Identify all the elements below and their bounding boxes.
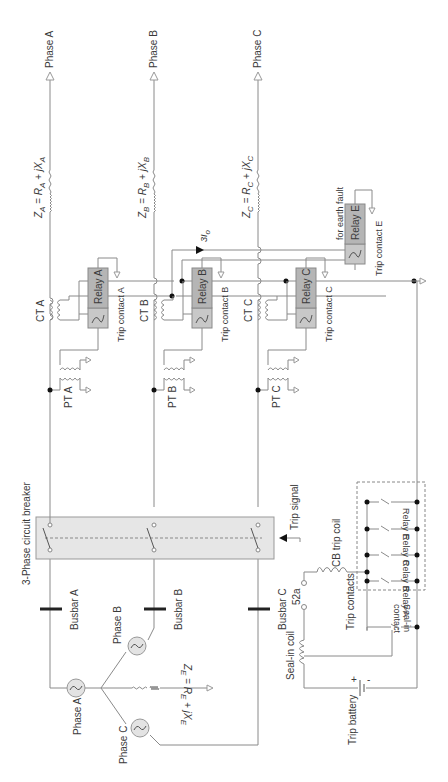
aux-contact-52a-label: 52a <box>291 588 302 605</box>
phase-b-output-label: Phase B <box>148 30 159 68</box>
seal-in-coil-label: Seal-in coil <box>285 631 296 680</box>
junction-dot <box>365 500 370 505</box>
junction-dot <box>415 527 420 532</box>
relay-e-label: Relay E <box>350 205 361 240</box>
phase-c-output-arrow-icon <box>254 72 262 80</box>
pt-c-label: PT C <box>271 385 282 408</box>
pt-c-primary-coil <box>268 368 288 370</box>
trip-contact-e-label: Trip contact E <box>374 221 384 276</box>
phase-a-resistance-symbol <box>49 170 51 194</box>
junction-dot <box>256 388 261 393</box>
junction-dot <box>365 553 370 558</box>
relay-b-label: Relay B <box>197 269 208 304</box>
cb-trip-coil-symbol <box>317 568 347 573</box>
phase-a-output-label: Phase A <box>44 30 55 68</box>
svg-text:ZC = RC + jXC: ZC = RC + jXC <box>241 155 255 219</box>
trip-contact-c-arrow-icon <box>322 272 328 278</box>
relay-c-label: Relay C <box>301 268 312 304</box>
junction-dot <box>415 500 420 505</box>
trip-battery-label: Trip battery <box>347 695 358 745</box>
trip-contact-a-arrow-icon <box>114 272 120 278</box>
junction-dot <box>152 388 157 393</box>
seal-in-coil-symbol <box>300 640 305 664</box>
busbar-c-label: Busbar C <box>277 588 288 630</box>
battery-minus-label: - <box>367 674 370 685</box>
junction-dot <box>170 294 175 299</box>
pt-a-ground-icon <box>86 357 91 363</box>
trip-contact-b-arrow-icon <box>218 272 224 278</box>
trip-contact-a-label: Trip contact A <box>116 287 126 342</box>
seal-in-contact-label-2: contact <box>392 604 402 634</box>
trip-contact-b-label: Trip contact B <box>220 287 230 342</box>
trip-signal-label: Trip signal <box>289 484 300 530</box>
ct-c-label: CT C <box>243 299 254 322</box>
junction-dot <box>415 625 420 630</box>
phase-c-output-label: Phase C <box>252 30 263 68</box>
seal-in-contact-label-1: Seal-in <box>402 604 412 632</box>
junction-dot <box>365 527 370 532</box>
trip-contacts-label: Trip contacts <box>345 573 356 630</box>
relay-a-label: Relay A <box>93 269 104 304</box>
source-phase-a <box>67 679 85 697</box>
junction-dot <box>415 579 420 584</box>
pt-b-ground-icon <box>190 387 195 393</box>
junction-dot <box>48 388 53 393</box>
busbar-b-label: Busbar B <box>173 589 184 630</box>
trip-contact-e-arrow-icon <box>369 208 375 214</box>
junction-dot <box>284 279 289 284</box>
junction-dot <box>415 553 420 558</box>
ct-a-primary-coil <box>50 300 53 320</box>
residual-current-arrow-icon <box>196 246 204 254</box>
svg-text:ZB = RB + jXB: ZB = RB + jXB <box>137 156 151 219</box>
busbar-a-label: Busbar A <box>69 589 80 630</box>
earth-impedance-label: ZE = RE + jXE <box>179 663 193 726</box>
pt-a-secondary-coil <box>60 378 80 380</box>
phase-c-impedance-label: ZC = RC + jXC <box>241 155 255 219</box>
pt-b-secondary-coil <box>164 378 184 380</box>
cb-trip-coil-label: CB trip coil <box>331 519 342 567</box>
protection-schematic: Phase A Phase B Phase C ZA = RA + jXA ZB… <box>0 0 448 782</box>
phase-b-output-arrow-icon <box>150 72 158 80</box>
svg-text:ZA = RA + jXA: ZA = RA + jXA <box>33 157 47 219</box>
ct-a-secondary-coil <box>58 300 61 320</box>
ct-a-label: CT A <box>35 300 46 322</box>
trip-circuit <box>300 281 426 696</box>
battery-plus-label: + <box>351 674 357 685</box>
pt-c-ground-icon <box>294 387 299 393</box>
svg-text:ZE = RE + jXE: ZE = RE + jXE <box>179 663 193 726</box>
earth-arrow-icon <box>207 685 213 691</box>
trip-signal-arrow-icon <box>279 534 287 542</box>
pt-b-label: PT B <box>167 386 178 408</box>
trip-contact-c-label: Trip contact C <box>324 286 334 342</box>
source-phase-a-label: Phase A <box>72 697 83 735</box>
aux-contact-52a <box>302 581 307 586</box>
phase-a-output-arrow-icon <box>46 72 54 80</box>
ground-arrow-icon <box>420 278 426 284</box>
source-phase-c <box>131 719 149 737</box>
pt-a-primary-coil <box>60 368 80 370</box>
source-phase-b-label: Phase B <box>112 606 123 644</box>
junction-dot <box>365 570 370 575</box>
source-phase-b <box>128 637 146 655</box>
phase-a-impedance-label: ZA = RA + jXA <box>33 157 47 219</box>
pt-c-ground-icon <box>294 357 299 363</box>
pt-b-ground-icon <box>190 357 195 363</box>
ct-c-secondary-coil <box>266 300 269 320</box>
pt-b-primary-coil <box>164 368 184 370</box>
ct-b-label: CT B <box>139 299 150 322</box>
phase-b-impedance-label: ZB = RB + jXB <box>137 156 151 219</box>
junction-dot <box>365 579 370 584</box>
pt-c-secondary-coil <box>268 378 288 380</box>
residual-current-label: 3Io <box>199 229 212 242</box>
pt-a-label: PT A <box>63 386 74 408</box>
ct-b-secondary-coil <box>162 300 165 320</box>
phase-a-reactance-symbol <box>50 194 52 212</box>
circuit-breaker-label: 3-Phase circuit breaker <box>21 482 32 585</box>
earth-fault-caption: for earth fault <box>335 186 345 240</box>
source-phase-c-label: Phase C <box>118 726 129 764</box>
junction-dot <box>180 279 185 284</box>
circuit-breaker <box>36 507 274 559</box>
pt-a-ground-icon <box>86 387 91 393</box>
